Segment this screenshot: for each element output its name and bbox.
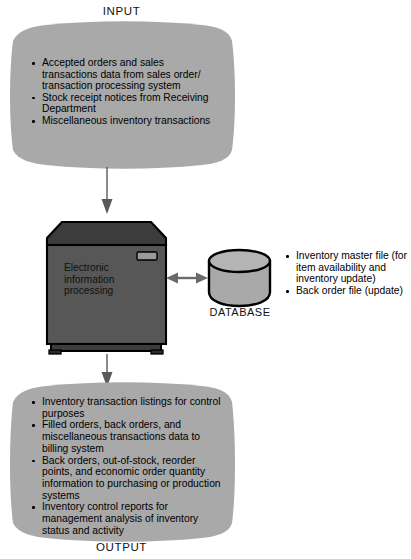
processing-to-database-arrow (166, 273, 208, 284)
output-section-caption: OUTPUT (0, 541, 243, 553)
list-item: Miscellaneous inventory transactions (31, 115, 217, 127)
list-item: Back order file (update) (285, 285, 411, 297)
flow-diagram: INPUT Accepted orders and sales transact… (0, 0, 411, 559)
list-item: Accepted orders and sales transactions d… (31, 57, 217, 92)
input-to-processing-arrow (102, 167, 113, 214)
list-item: Back orders, out-of-stock, reorder point… (31, 455, 227, 502)
cylinder-database-icon (209, 250, 270, 306)
database-caption: DATABASE (196, 306, 284, 318)
list-item: Inventory transaction listings for contr… (31, 396, 227, 419)
input-section-caption: INPUT (0, 5, 243, 17)
output-items-list: Inventory transaction listings for contr… (31, 396, 227, 536)
list-item: Stock receipt notices from Receiving Dep… (31, 92, 217, 115)
input-items-list: Accepted orders and sales transactions d… (31, 57, 217, 127)
database-items-list: Inventory master file (for item availabi… (285, 250, 411, 297)
processing-to-output-arrow (102, 354, 113, 387)
list-item: Inventory master file (for item availabi… (285, 250, 411, 285)
processing-label: Electronic information processing (64, 262, 160, 297)
list-item: Inventory control reports for management… (31, 501, 227, 536)
list-item: Filled orders, back orders, and miscella… (31, 419, 227, 454)
